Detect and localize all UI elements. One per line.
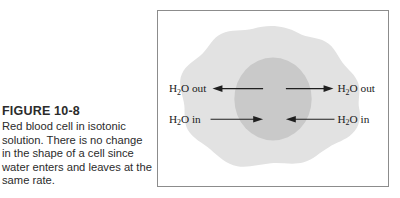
figure-page: FIGURE 10-8 Red blood cell in isotonic s… <box>0 0 400 198</box>
cell-nucleus-shape <box>234 57 311 140</box>
figure-caption-block: FIGURE 10-8 Red blood cell in isotonic s… <box>2 104 154 188</box>
cell-diagram: H2O out H2O out H2O in <box>158 11 388 186</box>
figure-caption-text: Red blood cell in isotonic solution. The… <box>2 120 154 188</box>
diagram-frame: H2O out H2O out H2O in <box>157 10 389 187</box>
figure-number: FIGURE 10-8 <box>2 104 154 119</box>
